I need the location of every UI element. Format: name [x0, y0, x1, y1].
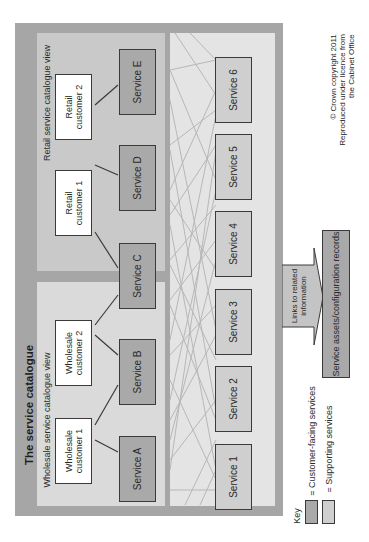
key-swatch-supporting [322, 500, 335, 524]
diagram-title: The service catalogue [22, 300, 38, 510]
customer-box-wholesale-1: Wholesale customer 1 [55, 418, 92, 484]
service-a-box: Service A [119, 436, 156, 502]
retail-view-label: Retail service catalogue view [40, 38, 54, 168]
links-arrow-label: Links to related information [284, 266, 314, 326]
service-b-box: Service B [119, 339, 156, 405]
customer-box-retail-2: Retail customer 2 [55, 74, 92, 140]
dependency-lines [170, 33, 216, 505]
service-6-box: Service 6 [215, 57, 252, 123]
customer-box-retail-1: Retail customer 1 [55, 170, 92, 236]
service-d-box: Service D [119, 145, 156, 211]
service-c-box: Service C [119, 243, 156, 309]
service-5-box: Service 5 [215, 134, 252, 200]
service-1-box: Service 1 [215, 444, 252, 510]
key-label-supporting: = Supporting services [322, 400, 336, 497]
key-swatch-customer-facing [305, 500, 318, 524]
customer-box-wholesale-2: Wholesale customer 2 [55, 320, 92, 386]
service-3-box: Service 3 [215, 289, 252, 355]
service-4-box: Service 4 [215, 211, 252, 277]
service-2-box: Service 2 [215, 366, 252, 432]
key-label-customer-facing: = Customer-facing services [305, 385, 319, 497]
wholesale-view-label: Wholesale service catalogue view [40, 335, 54, 505]
customer-service-lines [95, 85, 118, 452]
copyright-notice: © Crown copyright 2011 Reproduced under … [320, 30, 366, 150]
service-e-box: Service E [119, 49, 156, 115]
key-title: Key [290, 505, 304, 527]
service-assets-box: Service assets/configuration records [322, 230, 350, 378]
